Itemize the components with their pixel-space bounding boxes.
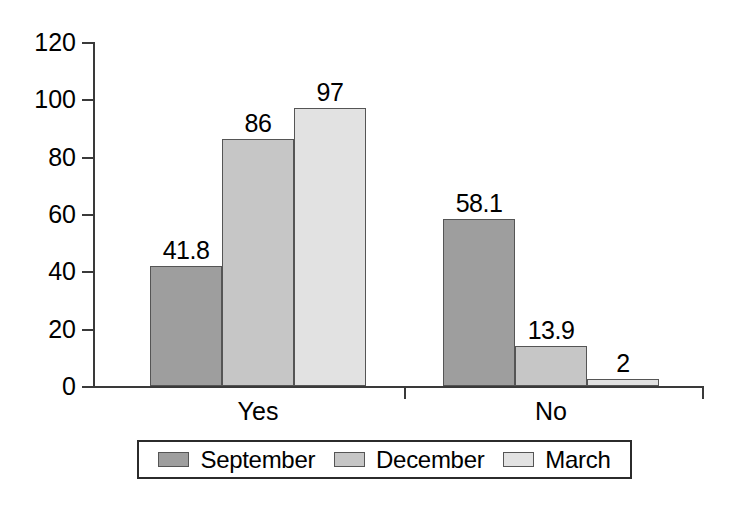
y-tick-120 xyxy=(82,42,93,44)
legend-swatch-march-icon xyxy=(503,452,534,467)
legend-label-september: September xyxy=(200,448,315,472)
y-tick-label-0: 0 xyxy=(12,374,76,399)
bar-yes-march xyxy=(294,108,366,386)
x-category-label-yes: Yes xyxy=(198,396,318,426)
bar-value-yes-march: 97 xyxy=(294,80,366,105)
bar-no-december xyxy=(515,346,587,386)
legend-swatch-september-icon xyxy=(158,452,189,467)
x-axis-line xyxy=(93,386,704,388)
legend: September December March xyxy=(137,440,632,479)
x-tick-end xyxy=(702,388,704,399)
bar-value-yes-december: 86 xyxy=(222,111,294,136)
bar-value-no-september: 58.1 xyxy=(443,191,515,216)
bar-no-march xyxy=(587,379,659,386)
x-tick-center xyxy=(404,388,406,399)
y-axis-line xyxy=(93,42,95,388)
legend-item-march[interactable]: March xyxy=(503,448,610,472)
y-tick-80 xyxy=(82,157,93,159)
y-tick-100 xyxy=(82,99,93,101)
bar-no-september xyxy=(443,219,515,386)
y-tick-label-20: 20 xyxy=(12,317,76,342)
y-tick-20 xyxy=(82,329,93,331)
y-tick-label-100: 100 xyxy=(12,87,76,112)
bar-yes-december xyxy=(222,139,294,386)
y-tick-40 xyxy=(82,271,93,273)
bar-chart: 120 100 80 60 40 20 0 41.8 86 97 58.1 13… xyxy=(0,0,739,507)
y-tick-label-60: 60 xyxy=(12,202,76,227)
bar-value-yes-september: 41.8 xyxy=(150,238,222,263)
legend-item-december[interactable]: December xyxy=(334,448,484,472)
legend-label-december: December xyxy=(376,448,484,472)
y-tick-label-80: 80 xyxy=(12,145,76,170)
y-tick-label-120: 120 xyxy=(12,30,76,55)
bar-yes-september xyxy=(150,266,222,386)
y-tick-60 xyxy=(82,214,93,216)
x-category-label-no: No xyxy=(491,396,611,426)
bar-value-no-march: 2 xyxy=(587,351,659,376)
y-tick-label-40: 40 xyxy=(12,259,76,284)
legend-label-march: March xyxy=(545,448,610,472)
legend-item-september[interactable]: September xyxy=(158,448,315,472)
legend-swatch-december-icon xyxy=(334,452,365,467)
y-tick-0 xyxy=(82,386,93,388)
bar-value-no-december: 13.9 xyxy=(515,318,587,343)
